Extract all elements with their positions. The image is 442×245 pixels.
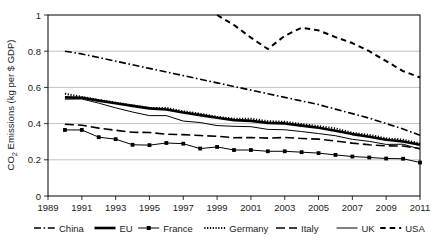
x-tick-label: 1991 (71, 202, 92, 213)
data-point-marker (63, 128, 67, 132)
legend-label: USA (405, 223, 425, 234)
data-point-marker (300, 150, 304, 154)
data-point-marker (198, 147, 202, 151)
legend-label: UK (362, 223, 376, 234)
legend-item-italy[interactable]: Italy (276, 223, 319, 234)
x-tick-label: 1997 (173, 202, 194, 213)
data-point-marker (97, 135, 101, 139)
svg-text:CO2 Emissions (kg per $ GDP): CO2 Emissions (kg per $ GDP) (5, 40, 19, 171)
legend-item-germany[interactable]: Germany (204, 223, 268, 234)
legend-item-usa[interactable]: USA (380, 223, 425, 234)
data-point-marker (114, 137, 118, 141)
data-point-marker (401, 157, 405, 161)
legend-label: France (163, 223, 193, 234)
legend-label: Italy (301, 223, 319, 234)
data-point-marker (317, 151, 321, 155)
data-point-marker (283, 149, 287, 153)
legend-label: China (59, 223, 85, 234)
y-tick-marks (44, 15, 48, 196)
y-tick-label: 0 (36, 191, 41, 202)
data-point-marker (131, 143, 135, 147)
plot-background (48, 15, 420, 196)
data-point-marker (384, 157, 388, 161)
x-tick-label: 2001 (240, 202, 261, 213)
legend-label: EU (120, 223, 133, 234)
y-tick-label: 0.8 (28, 46, 41, 57)
y-tick-label: 0.6 (28, 82, 41, 93)
legend-item-france[interactable]: France (138, 223, 193, 234)
co2-emissions-line-chart: 00.20.40.60.81 1989199119931995199719992… (0, 0, 442, 245)
data-point-marker (249, 148, 253, 152)
y-tick-label: 1 (36, 10, 41, 21)
data-point-marker (232, 148, 236, 152)
data-point-marker (215, 145, 219, 149)
x-tick-label: 2005 (308, 202, 329, 213)
y-axis-tick-labels: 00.20.40.60.81 (28, 10, 41, 202)
data-point-marker (350, 155, 354, 159)
legend-label: Germany (229, 223, 268, 234)
x-tick-label: 2011 (410, 202, 430, 213)
legend-item-china[interactable]: China (34, 223, 85, 234)
y-axis-title: CO2 Emissions (kg per $ GDP) (5, 40, 19, 171)
y-tick-label: 0.2 (28, 154, 41, 165)
chart-legend: ChinaEUFranceGermanyItalyUKUSA (34, 223, 425, 234)
data-point-marker (164, 141, 168, 145)
legend-item-eu[interactable]: EU (95, 223, 133, 234)
x-axis-tick-labels: 1989199119931995199719992001200320052007… (37, 202, 430, 213)
y-tick-label: 0.4 (28, 118, 41, 129)
data-point-marker (334, 153, 338, 157)
legend-item-uk[interactable]: UK (337, 223, 376, 234)
x-tick-label: 1999 (207, 202, 228, 213)
x-tick-label: 2003 (274, 202, 295, 213)
data-point-marker (367, 156, 371, 160)
x-tick-label: 2007 (342, 202, 363, 213)
legend-swatch-marker (147, 226, 151, 230)
x-tick-label: 1993 (105, 202, 126, 213)
data-point-marker (181, 142, 185, 146)
x-tick-label: 1995 (139, 202, 160, 213)
chart-figure: 00.20.40.60.81 1989199119931995199719992… (0, 0, 442, 245)
x-tick-marks (48, 196, 420, 200)
data-point-marker (80, 128, 84, 132)
data-point-marker (266, 149, 270, 153)
x-tick-label: 2009 (376, 202, 397, 213)
data-point-marker (148, 143, 152, 147)
x-tick-label: 1989 (37, 202, 58, 213)
